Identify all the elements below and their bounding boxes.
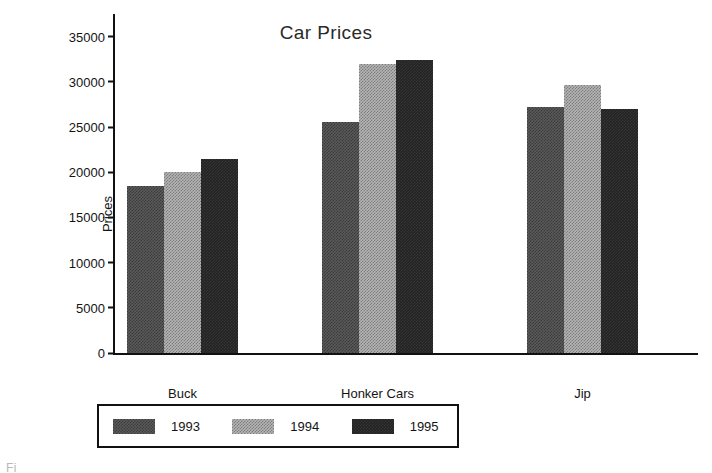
legend-label: 1993 [171, 419, 200, 434]
y-tick-label: 25000 [43, 120, 105, 135]
legend-item[interactable]: 1995 [338, 419, 457, 434]
legend-label: 1994 [290, 419, 319, 434]
x-axis-label: Buck [168, 386, 197, 401]
legend-swatch-1993-icon [113, 419, 155, 434]
bar [127, 186, 164, 353]
y-tick-label: 35000 [43, 29, 105, 44]
plot-area: 05000100001500020000250003000035000 Pric… [113, 14, 698, 355]
legend-label: 1995 [410, 419, 439, 434]
bar [201, 159, 238, 353]
legend-swatch-1995-icon [352, 419, 394, 434]
bars-layer [113, 14, 698, 353]
bar [322, 122, 359, 353]
y-tick-label: 20000 [43, 165, 105, 180]
y-tick-label: 15000 [43, 210, 105, 225]
x-axis-label: Jip [574, 386, 591, 401]
bottom-caption-artifact: Fi [6, 461, 706, 473]
x-axis-line [113, 353, 698, 355]
y-tick-label: 0 [43, 346, 105, 361]
bar [564, 85, 601, 353]
legend-item[interactable]: 1993 [99, 419, 218, 434]
chart-legend: 1993 1994 1995 [97, 404, 459, 448]
y-tick-label: 30000 [43, 74, 105, 89]
bar [396, 60, 433, 353]
bar [359, 64, 396, 353]
y-tick-label: 5000 [43, 300, 105, 315]
legend-swatch-1994-icon [232, 419, 274, 434]
bar [164, 172, 201, 353]
y-tick-label: 10000 [43, 255, 105, 270]
legend-item[interactable]: 1994 [218, 419, 337, 434]
bar [527, 107, 564, 353]
x-axis-label: Honker Cars [341, 386, 414, 401]
bar [601, 109, 638, 353]
